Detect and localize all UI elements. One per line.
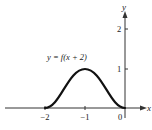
x-axis-label: x [146, 103, 151, 113]
y-axis-label: y [121, 2, 126, 12]
x-tick-label-m1: −1 [80, 112, 89, 122]
y-tick-label-2: 2 [117, 24, 121, 34]
x-tick-label-0: 0 [118, 112, 122, 122]
x-axis-arrow-icon [140, 106, 147, 111]
y-tick-label-1: 1 [117, 64, 121, 74]
curve-f-x-plus-2 [45, 69, 125, 108]
chart-canvas: y = f(x + 2) x y −2 −1 0 1 2 [0, 0, 152, 130]
y-axis-arrow-icon [123, 11, 128, 18]
curve-label: y = f(x + 2) [46, 52, 87, 62]
x-tick-label-m2: −2 [40, 112, 49, 122]
